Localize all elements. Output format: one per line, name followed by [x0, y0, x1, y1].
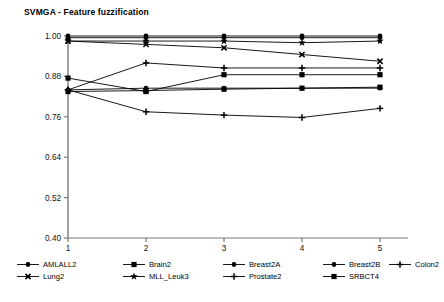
data-point [298, 39, 305, 46]
legend-marker-glyph [332, 262, 337, 267]
data-point [65, 89, 70, 94]
legend-marker-glyph [26, 262, 31, 267]
y-axis-tick-label: 0.40 [45, 234, 61, 243]
legend-marker-glyph [232, 262, 237, 267]
chart-legend: AMLALL2Brain2Breast2ABreast2BColon2 Lung… [0, 258, 444, 288]
data-point [377, 85, 382, 90]
data-point [299, 86, 304, 91]
data-point [376, 37, 383, 44]
legend-marker-circle-icon [222, 259, 246, 270]
legend-key [222, 271, 246, 282]
legend-marker-star-icon [122, 271, 146, 282]
x-axis-tick-label: 1 [66, 244, 71, 253]
legend-key [122, 271, 146, 282]
legend-item-label: Lung2 [43, 271, 64, 282]
legend-item-mll_leuk3[interactable]: MLL_Leuk3 [122, 270, 189, 283]
legend-key [322, 271, 346, 282]
chart-root: SVMGA - Feature fuzzification 1.000.880.… [0, 0, 444, 302]
legend-item-label: Colon2 [415, 259, 439, 270]
legend-item-label: SRBCT4 [349, 271, 379, 282]
x-axis-tick-label: 5 [378, 244, 383, 253]
y-axis-tick-label: 0.76 [45, 113, 61, 122]
data-point [220, 37, 227, 44]
data-point [221, 72, 226, 77]
legend-marker-square-icon [322, 271, 346, 282]
y-axis-tick-label: 0.52 [45, 194, 61, 203]
legend-marker-plus-icon [388, 259, 412, 270]
data-point [299, 72, 304, 77]
legend-item-label: Prostate2 [249, 271, 282, 282]
x-axis-tick-label: 3 [222, 244, 227, 253]
series-line [68, 41, 380, 61]
legend-marker-glyph [131, 262, 136, 267]
series-mll_leuk3 [64, 37, 383, 46]
legend-key [388, 259, 412, 270]
legend-key [222, 259, 246, 270]
legend-item-label: MLL_Leuk3 [149, 271, 189, 282]
y-axis-tick-label: 1.00 [45, 32, 61, 41]
legend-marker-circle-icon [16, 259, 40, 270]
legend-item-srbct4[interactable]: SRBCT4 [322, 270, 379, 283]
plot-area: 1.000.880.760.640.520.4012345 [0, 0, 444, 256]
legend-marker-circle-icon [322, 259, 346, 270]
data-point [65, 75, 70, 80]
legend-marker-glyph [331, 274, 336, 279]
line-chart-canvas: 1.000.880.760.640.520.4012345 [0, 0, 444, 256]
legend-key [322, 259, 346, 270]
legend-marker-cross-icon [16, 271, 40, 282]
legend-marker-square-icon [122, 259, 146, 270]
legend-marker-plus-icon [222, 271, 246, 282]
data-point [143, 88, 148, 93]
legend-key [122, 259, 146, 270]
legend-item-label: Breast2A [249, 259, 280, 270]
legend-row: Lung2MLL_Leuk3Prostate2SRBCT4 [0, 270, 444, 283]
legend-key [16, 271, 40, 282]
x-axis-tick-label: 2 [144, 244, 149, 253]
legend-item-lung2[interactable]: Lung2 [16, 270, 64, 283]
legend-item-prostate2[interactable]: Prostate2 [222, 270, 282, 283]
legend-key [16, 259, 40, 270]
data-point [142, 37, 149, 44]
data-point [221, 87, 226, 92]
legend-marker-glyph [130, 273, 137, 280]
legend-item-label: AMLALL2 [43, 259, 76, 270]
y-axis-tick-label: 0.64 [45, 153, 61, 162]
y-axis-tick-label: 0.88 [45, 72, 61, 81]
x-axis-tick-label: 4 [300, 244, 305, 253]
data-point [377, 72, 382, 77]
legend-item-label: Brain2 [149, 259, 171, 270]
legend-item-label: Breast2B [349, 259, 380, 270]
